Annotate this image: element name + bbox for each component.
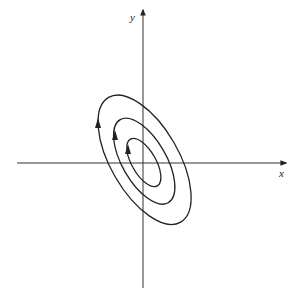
arrow-up-icon <box>95 118 101 128</box>
phase-portrait <box>0 0 306 303</box>
outer-orbit <box>79 80 210 239</box>
arrow-up-icon <box>112 130 118 140</box>
arrow-up-icon <box>125 144 131 154</box>
x-axis-label: x <box>279 167 284 179</box>
middle-orbit <box>101 109 187 214</box>
y-axis-label: y <box>130 11 135 23</box>
